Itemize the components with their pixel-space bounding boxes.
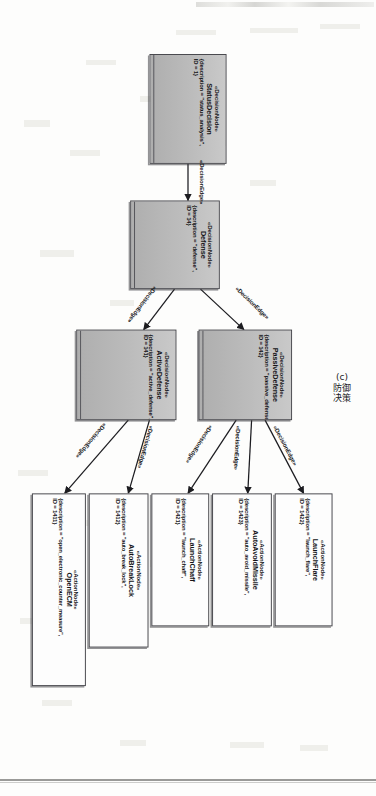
- node-attributes: {description = "status_analysis", ID = 1…: [192, 55, 205, 163]
- edge-label-status-to-defense: «DecisionEdge»: [199, 160, 206, 204]
- node-name: PassiveDefense: [270, 331, 278, 420]
- figure-caption: (c) 防御决策: [330, 372, 354, 404]
- node-attr-description: {description = "launch_flare",: [304, 498, 311, 623]
- node-name: StatusDecision: [205, 55, 213, 163]
- node-attr-id: ID = 1421}: [174, 498, 181, 623]
- node-launch-flare[interactable]: «ActionNode» LaunchFlare {description = …: [275, 493, 333, 626]
- node-attr-description: {description = "active_defense",: [148, 334, 155, 417]
- node-attr-id: ID = 1}: [192, 59, 199, 161]
- scan-artifact-top: [196, 2, 374, 7]
- node-attr-description: {description = "status_analysis",: [198, 59, 205, 161]
- node-attr-id: ID = 1411}: [51, 498, 58, 683]
- node-status-decision[interactable]: «DecisionNode» StatusDecision {descripti…: [149, 54, 226, 164]
- node-auto-avoid-missile[interactable]: «ActionNode» AutoAvoidMissile {descripti…: [212, 493, 272, 626]
- node-attributes: {description = "auto_break_lock", ID = 1…: [114, 494, 127, 646]
- caption-text: 防御决策: [330, 383, 354, 404]
- node-attr-description: {description = "auto_avoid_missile",: [244, 498, 251, 623]
- node-name: AutoBreakLock: [127, 494, 135, 646]
- edge-passive-to-launchflare: [265, 420, 304, 493]
- node-name: LaunchFlare: [311, 494, 319, 625]
- node-stereotype: «ActionNode»: [259, 494, 266, 625]
- node-stereotype: «ActionNode»: [136, 494, 143, 646]
- page-rule: [0, 779, 376, 781]
- node-attributes: {description = "open_electronic_counter_…: [51, 494, 64, 685]
- node-attr-id: ID = 1423}: [237, 498, 244, 623]
- node-name: LaunchChaff: [187, 494, 195, 625]
- node-attr-id: ID = 141}: [142, 334, 149, 417]
- edge-passive-to-autoavoidmissile: [248, 420, 252, 493]
- caption-index: (c): [330, 372, 354, 383]
- node-stereotype: «DecisionNode»: [164, 331, 171, 420]
- node-attr-id: ID = 142}: [257, 334, 264, 417]
- node-attributes: {description = "defense", ID = 14}: [185, 201, 198, 288]
- node-name: Defense: [198, 201, 206, 288]
- node-attr-id: ID = 1412}: [114, 498, 121, 644]
- node-attr-description: {description = "auto_break_lock",: [120, 498, 127, 644]
- node-passive-defense[interactable]: «DecisionNode» PassiveDefense {descripti…: [199, 330, 292, 421]
- node-auto-break-lock[interactable]: «ActionNode» AutoBreakLock {description …: [89, 493, 149, 647]
- node-attributes: {description = "auto_avoid_missile", ID …: [237, 494, 250, 625]
- node-stereotype: «ActionNode»: [197, 494, 204, 625]
- node-attr-description: {description = "defense",: [192, 205, 199, 286]
- node-attr-id: ID = 1422}: [298, 498, 305, 623]
- node-stereotype: «DecisionNode»: [279, 331, 286, 420]
- scan-speck: [320, 24, 360, 29]
- node-stereotype: «ActionNode»: [320, 494, 327, 625]
- node-attributes: {description = "active_defense", ID = 14…: [142, 331, 155, 420]
- node-attr-id: ID = 14}: [185, 205, 192, 286]
- node-attributes: {description = "launch_chaff", ID = 1421…: [174, 494, 187, 625]
- node-name: ActiveDefense: [155, 331, 163, 420]
- node-open-ecm[interactable]: «ActionNode» OpenECM {description = "ope…: [32, 493, 86, 686]
- page-rule-shadow: [0, 782, 376, 783]
- node-name: OpenECM: [64, 494, 72, 685]
- node-launch-chaff[interactable]: «ActionNode» LaunchChaff {description = …: [151, 493, 209, 626]
- node-defense[interactable]: «DecisionNode» Defense {description = "d…: [130, 200, 220, 289]
- node-stereotype: «DecisionNode»: [214, 55, 221, 163]
- node-stereotype: «ActionNode»: [73, 494, 80, 685]
- edge-defense-to-passive: [201, 289, 244, 329]
- node-stereotype: «DecisionNode»: [207, 201, 214, 288]
- node-attributes: {description = "passive_defense", ID = 1…: [257, 331, 270, 420]
- node-attr-description: {description = "launch_chaff",: [181, 498, 188, 623]
- node-attributes: {description = "launch_flare", ID = 1422…: [298, 494, 311, 625]
- activity-diagram: «DecisionNode» StatusDecision {descripti…: [28, 41, 348, 756]
- node-active-defense[interactable]: «DecisionNode» ActiveDefense {descriptio…: [76, 330, 176, 421]
- node-attr-description: {description = "open_electronic_counter_…: [58, 498, 65, 683]
- scan-speck: [176, 30, 216, 35]
- node-attr-description: {description = "passive_defense",: [264, 334, 271, 417]
- scan-speck: [250, 28, 298, 33]
- node-name: AutoAvoidMissile: [250, 494, 258, 625]
- figure-rotated-container: «DecisionNode» StatusDecision {descripti…: [28, 41, 348, 756]
